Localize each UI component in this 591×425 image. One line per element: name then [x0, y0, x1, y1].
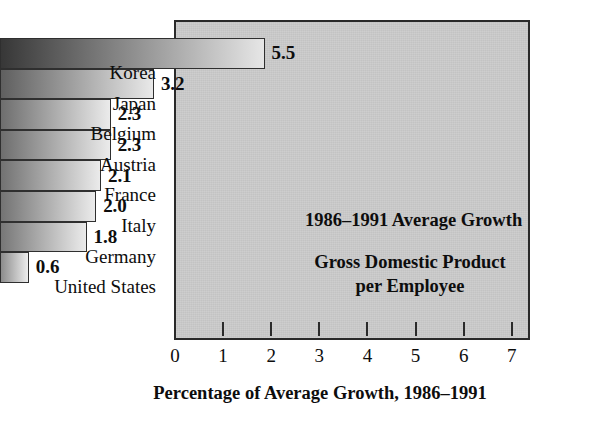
- x-tick-label: 2: [266, 345, 276, 367]
- category-label: Germany: [0, 242, 166, 273]
- category-label: Belgium: [0, 119, 166, 150]
- x-tick-mark: [511, 322, 513, 336]
- category-label: France: [0, 180, 166, 211]
- x-tick-label: 3: [315, 345, 325, 367]
- x-tick-mark: [174, 322, 176, 336]
- category-label: Japan: [0, 89, 166, 120]
- category-label: Austria: [0, 150, 166, 181]
- annotation-average-growth: 1986–1991 Average Growth: [305, 210, 522, 231]
- bar-chart-figure: Korea Japan Belgium Austria France Italy…: [0, 0, 591, 425]
- x-tick-label: 6: [459, 345, 469, 367]
- x-tick-mark: [318, 322, 320, 336]
- bar-value-label: 5.5: [272, 42, 295, 64]
- x-axis-tick-labels: 01234567: [174, 345, 530, 373]
- annotation-gdp-per-employee: Gross Domestic Product per Employee: [300, 250, 520, 299]
- x-tick-label: 1: [218, 345, 228, 367]
- x-tick-label: 5: [411, 345, 421, 367]
- category-label: Italy: [0, 211, 166, 242]
- x-tick-label: 4: [363, 345, 373, 367]
- x-tick-mark: [366, 322, 368, 336]
- x-tick-mark: [463, 322, 465, 336]
- x-tick-label: 0: [170, 345, 180, 367]
- x-axis-title: Percentage of Average Growth, 1986–1991: [90, 383, 550, 404]
- x-tick-mark: [270, 322, 272, 336]
- category-label: United States: [0, 272, 166, 303]
- category-axis-labels: Korea Japan Belgium Austria France Italy…: [0, 58, 166, 304]
- x-tick-mark: [222, 322, 224, 336]
- annotation-gdp-line1: Gross Domestic Product: [300, 250, 520, 274]
- annotation-gdp-line2: per Employee: [300, 274, 520, 298]
- x-tick-label: 7: [507, 345, 517, 367]
- x-axis-tick-marks: [174, 322, 530, 340]
- category-label: Korea: [0, 58, 166, 89]
- x-tick-mark: [415, 322, 417, 336]
